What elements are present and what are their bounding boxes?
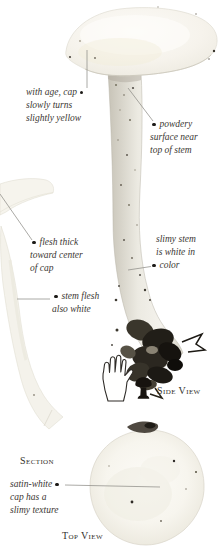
label-side-view: Side View: [157, 385, 201, 396]
annotation-text: slimy texture: [10, 504, 59, 517]
label-section: Section: [20, 455, 54, 466]
annotation-text: with age, cap: [26, 87, 77, 97]
hand-scale-icon: [98, 352, 136, 402]
annotation-stem-flesh: stem flesh also white: [52, 290, 99, 316]
annotation-powdery: powdery surface near top of stem: [150, 118, 198, 157]
annotation-text: toward center: [30, 249, 83, 262]
label-top-view: Top View: [62, 530, 103, 541]
annotation-text: satin-white: [10, 479, 52, 489]
mushroom-top-view-illustration: [90, 421, 204, 545]
bullet-point: [152, 264, 156, 268]
mushroom-illustrations: [0, 0, 223, 555]
bullet-point: [55, 483, 59, 487]
bullet-point: [152, 123, 156, 127]
bullet-point: [80, 91, 84, 95]
annotation-text: cap has a: [10, 491, 59, 504]
bullet-point: [54, 295, 58, 299]
page: with age, cap slowly turns slightly yell…: [0, 0, 223, 555]
annotation-text: of cap: [30, 262, 83, 275]
annotation-flesh-thick: flesh thick toward center of cap: [30, 236, 83, 275]
annotation-text: color: [160, 260, 180, 270]
annotation-text: slowly turns: [26, 99, 83, 112]
annotation-text: also white: [52, 303, 99, 316]
annotation-text: surface near: [150, 131, 198, 144]
mushroom-side-view-illustration: [66, 6, 217, 398]
annotation-cap-age: with age, cap slowly turns slightly yell…: [26, 86, 83, 125]
annotation-text: flesh thick: [40, 237, 79, 247]
mushroom-scale-icon: [134, 376, 153, 401]
annotation-text: top of stem: [150, 144, 198, 157]
annotation-slimy-stem: slimy stem is white in color: [150, 233, 196, 272]
annotation-text: powdery: [160, 119, 193, 129]
annotation-text: is white in: [150, 246, 196, 259]
annotation-satin-white: satin-white cap has a slimy texture: [10, 478, 59, 517]
bullet-point: [32, 241, 36, 245]
annotation-text: slimy stem: [150, 233, 196, 246]
annotation-text: stem flesh: [62, 291, 100, 301]
annotation-text: slightly yellow: [26, 112, 83, 125]
